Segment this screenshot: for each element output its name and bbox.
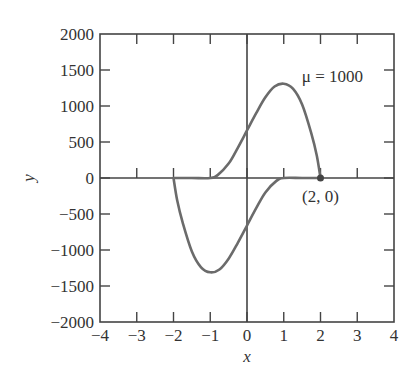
y-tick-label: −2000 xyxy=(50,313,94,332)
x-tick-label: 0 xyxy=(243,326,252,345)
phase-plane-chart: −4−3−2−1012342000150010005000−500−1000−1… xyxy=(0,0,420,373)
x-tick-label: 2 xyxy=(316,326,325,345)
y-tick-label: 1500 xyxy=(60,61,94,80)
y-tick-label: −1500 xyxy=(50,277,94,296)
x-tick-label: 3 xyxy=(353,326,362,345)
y-tick-label: 500 xyxy=(69,133,95,152)
x-tick-label: −3 xyxy=(128,326,146,345)
y-tick-label: 0 xyxy=(86,169,95,188)
y-tick-label: −1000 xyxy=(50,241,94,260)
point-label: (2, 0) xyxy=(302,187,339,206)
x-tick-label: 1 xyxy=(280,326,289,345)
equilibrium-point-marker xyxy=(317,175,324,182)
x-tick-label: −1 xyxy=(201,326,219,345)
mu-label: μ = 1000 xyxy=(302,67,363,86)
y-tick-label: 2000 xyxy=(60,25,94,44)
y-tick-label: 1000 xyxy=(60,97,94,116)
y-tick-label: −500 xyxy=(59,205,94,224)
x-tick-label: 4 xyxy=(390,326,399,345)
y-axis-title: y xyxy=(19,174,38,184)
x-axis-title: x xyxy=(242,347,251,366)
x-tick-label: −2 xyxy=(164,326,182,345)
